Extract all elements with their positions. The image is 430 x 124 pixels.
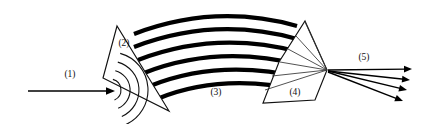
diagram-canvas: (1)(2)(3)(4)(5) (0, 0, 430, 124)
callout-label-5: (5) (358, 52, 369, 63)
callout-label-1: (1) (64, 69, 75, 80)
callout-label-4: (4) (289, 87, 300, 98)
figure-container: (1)(2)(3)(4)(5) (0, 0, 430, 124)
callout-label-2: (2) (118, 38, 129, 49)
output-beam-line (328, 69, 406, 70)
callout-label-3: (3) (210, 87, 221, 98)
